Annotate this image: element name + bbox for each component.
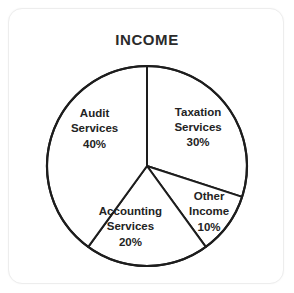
- pie-chart-svg: [9, 9, 285, 285]
- chart-card: INCOME TaxationServices30%OtherIncome10%…: [8, 8, 284, 284]
- pie-chart: TaxationServices30%OtherIncome10%Account…: [9, 9, 285, 285]
- screenshot-root: INCOME TaxationServices30%OtherIncome10%…: [0, 0, 294, 293]
